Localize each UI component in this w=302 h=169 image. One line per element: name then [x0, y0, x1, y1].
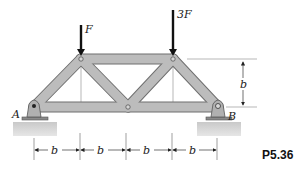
problem-number: P5.36 — [262, 148, 294, 162]
label-a: A — [11, 108, 20, 121]
truss-members — [34, 59, 218, 107]
load-arrow-3f — [169, 10, 177, 56]
label-b-support: B — [227, 110, 236, 123]
label-f: F — [84, 23, 93, 36]
span-label-1: b — [51, 144, 58, 157]
span-label-2: b — [97, 144, 104, 157]
ground-b — [197, 122, 241, 136]
ground-a — [13, 122, 57, 136]
load-arrow-f — [77, 25, 85, 56]
span-label-3: b — [143, 144, 150, 157]
truss-diagram: F 3F A B b b b b b P5.36 — [0, 0, 302, 169]
height-label: b — [240, 78, 247, 91]
span-label-4: b — [189, 144, 196, 157]
label-3f: 3F — [177, 8, 192, 21]
